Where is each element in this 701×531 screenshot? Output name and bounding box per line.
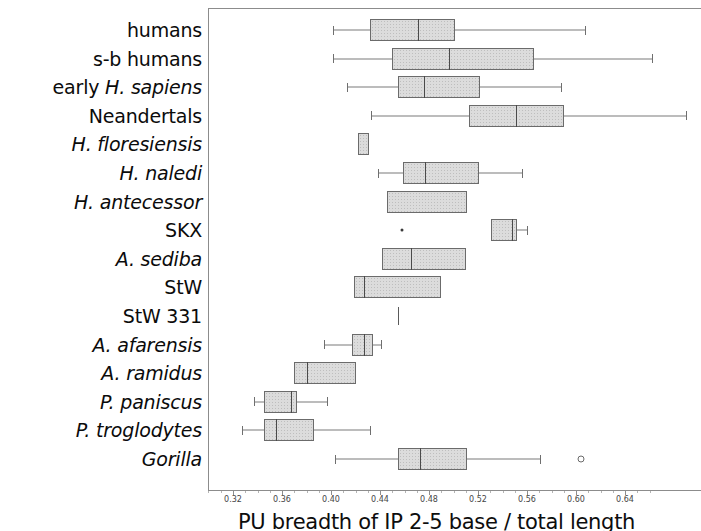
x-axis-minor-tick <box>454 491 455 493</box>
x-axis-minor-tick <box>466 491 467 493</box>
whisker-cap-low <box>378 169 379 178</box>
median-line <box>420 448 421 470</box>
whisker-cap-low <box>324 340 325 349</box>
category-label: H. naledi <box>119 164 202 183</box>
x-axis-minor-tick <box>601 491 602 493</box>
median-line <box>449 48 450 70</box>
whisker-low <box>333 30 370 31</box>
x-axis-tick-label: 0.56 <box>518 495 536 504</box>
median-line <box>418 19 419 41</box>
box <box>358 133 369 155</box>
x-axis-title: PU breadth of IP 2-5 base / total length <box>238 512 701 531</box>
whisker-cap-high <box>585 26 586 35</box>
whisker-cap-low <box>242 426 243 435</box>
x-axis: 0.320.360.400.440.480.520.560.600.64 <box>208 491 701 513</box>
whisker-high <box>297 401 328 402</box>
chart-root: humanss-b humansearly H. sapiensNeandert… <box>0 0 701 531</box>
whisker-high <box>455 30 585 31</box>
whisker-low <box>347 87 398 88</box>
single-value-marker <box>398 307 399 325</box>
category-label: P. paniscus <box>100 392 202 411</box>
whisker-cap-high <box>381 340 382 349</box>
box <box>370 19 455 41</box>
whisker-low <box>333 58 392 59</box>
whisker-high <box>517 230 527 231</box>
x-axis-minor-tick <box>441 491 442 493</box>
plot-frame-left <box>208 8 209 491</box>
category-label: humans <box>127 21 202 40</box>
whisker-low <box>242 430 264 431</box>
box <box>387 191 467 213</box>
box <box>398 76 480 98</box>
whisker-cap-low <box>347 83 348 92</box>
x-axis-tick-label: 0.40 <box>322 495 340 504</box>
x-axis-tick-label: 0.52 <box>469 495 487 504</box>
whisker-cap-high <box>522 169 523 178</box>
x-axis-minor-tick <box>343 491 344 493</box>
x-axis-minor-tick <box>637 491 638 493</box>
outlier-point <box>401 229 404 232</box>
x-axis-minor-tick <box>552 491 553 493</box>
median-line <box>276 419 277 441</box>
x-axis-tick-label: 0.64 <box>616 495 634 504</box>
x-axis-minor-tick <box>307 491 308 493</box>
x-axis-minor-tick <box>368 491 369 493</box>
box <box>392 48 534 70</box>
category-label: H. antecessor <box>74 192 202 211</box>
category-label: early H. sapiens <box>53 78 202 97</box>
box <box>264 419 314 441</box>
x-axis-minor-tick <box>417 491 418 493</box>
x-axis-minor-tick <box>258 491 259 493</box>
x-axis-minor-tick <box>539 491 540 493</box>
category-label: Neandertals <box>89 106 202 125</box>
whisker-cap-high <box>527 226 528 235</box>
x-axis-minor-tick <box>515 491 516 493</box>
whisker-cap-low <box>254 397 255 406</box>
plot-area <box>208 8 701 491</box>
median-line <box>411 248 412 270</box>
category-label-column: humanss-b humansearly H. sapiensNeandert… <box>0 0 202 491</box>
whisker-low <box>371 115 469 116</box>
x-axis-tick-label: 0.60 <box>567 495 585 504</box>
whisker-cap-high <box>561 83 562 92</box>
whisker-high <box>479 173 522 174</box>
whisker-cap-low <box>335 455 336 464</box>
category-label: A. afarensis <box>92 335 202 354</box>
x-axis-tick-label: 0.32 <box>224 495 242 504</box>
whisker-low <box>254 401 264 402</box>
whisker-high <box>480 87 561 88</box>
box <box>382 248 465 270</box>
category-label: A. sediba <box>116 249 202 268</box>
whisker-high <box>564 115 687 116</box>
category-label: A. ramidus <box>101 364 202 383</box>
x-axis-minor-tick <box>221 491 222 493</box>
box <box>398 448 467 470</box>
x-axis-tick-label: 0.48 <box>420 495 438 504</box>
x-axis-minor-tick <box>405 491 406 493</box>
x-axis-minor-tick <box>490 491 491 493</box>
whisker-low <box>324 344 352 345</box>
x-axis-minor-tick <box>588 491 589 493</box>
category-label: StW 331 <box>123 307 202 326</box>
whisker-high <box>534 58 652 59</box>
x-axis-minor-tick <box>613 491 614 493</box>
median-line <box>512 219 513 241</box>
x-axis-minor-tick <box>294 491 295 493</box>
x-axis-tick-label: 0.44 <box>371 495 389 504</box>
x-axis-tick-label: 0.36 <box>273 495 291 504</box>
median-line <box>425 162 426 184</box>
x-axis-minor-tick <box>392 491 393 493</box>
x-axis-minor-tick <box>650 491 651 493</box>
plot-frame-top <box>208 8 701 9</box>
x-axis-minor-tick <box>270 491 271 493</box>
x-axis-minor-tick <box>564 491 565 493</box>
whisker-cap-low <box>333 54 334 63</box>
whisker-cap-high <box>652 54 653 63</box>
x-axis-minor-tick <box>319 491 320 493</box>
whisker-cap-high <box>540 455 541 464</box>
whisker-low <box>378 173 404 174</box>
whisker-cap-low <box>333 26 334 35</box>
whisker-cap-low <box>371 111 372 120</box>
median-line <box>364 334 365 356</box>
category-label: H. floresiensis <box>72 135 202 154</box>
